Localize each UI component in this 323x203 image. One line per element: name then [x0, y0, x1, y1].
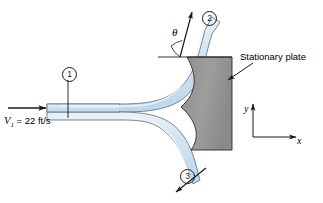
jet-impingement-figure: Stationary plate V1 = 22 ft/s θ y x 1 2 … — [0, 0, 323, 203]
station-2-marker: 2 — [202, 11, 217, 26]
stationary-plate — [181, 57, 232, 150]
inlet-velocity-label: V1 = 22 ft/s — [4, 116, 51, 129]
theta-label: θ — [172, 27, 177, 38]
stationary-plate-label: Stationary plate — [240, 52, 306, 62]
velocity-value: = 22 ft/s — [14, 115, 51, 126]
coordinate-axes — [253, 104, 296, 137]
jet-inlet-segment — [47, 104, 119, 112]
jet-lower-branch — [47, 112, 200, 184]
x-axis-label: x — [297, 136, 301, 146]
upper-outlet-arrow — [180, 12, 192, 57]
station-3-marker: 3 — [180, 169, 195, 184]
y-axis-label: y — [244, 104, 248, 114]
station-1-marker: 1 — [62, 67, 77, 82]
plate-body — [181, 57, 232, 150]
figure-canvas — [0, 0, 323, 203]
